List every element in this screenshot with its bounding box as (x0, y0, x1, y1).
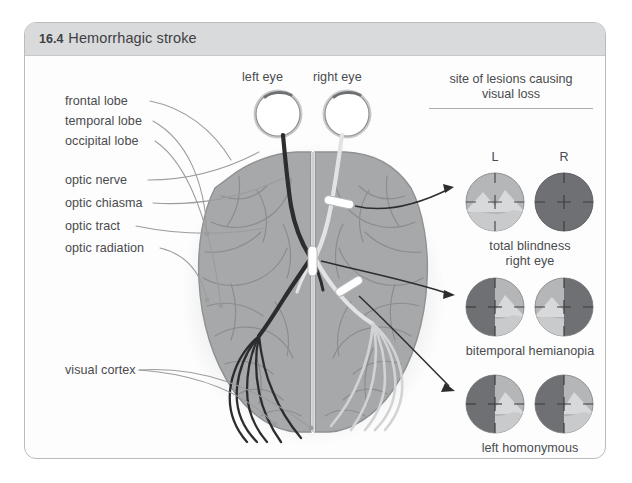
figure-heading: 16.4Hemorrhagic stroke (39, 30, 197, 46)
leader-dot-radiation (205, 298, 210, 303)
caption-total-blindness: total blindness right eye (439, 239, 606, 269)
figure-number: 16.4 (39, 32, 63, 46)
caption-line1: total blindness (439, 239, 606, 254)
field-row-2-left (465, 277, 525, 337)
lesion-panel-title: site of lesions causing visual loss (423, 72, 599, 102)
leader-dot-occipital (219, 304, 224, 309)
leader-dot-cortex-a (273, 422, 278, 427)
lesion-panel-title-line1: site of lesions causing (423, 72, 599, 87)
label-temporal-lobe: temporal lobe (65, 114, 142, 128)
leader-dot-temporal (205, 232, 210, 237)
field-row-3-left (465, 374, 525, 434)
caption-line1: left homonymous (439, 441, 606, 456)
left-eye-label: left eye (242, 70, 283, 84)
label-occipital-lobe: occipital lobe (65, 134, 139, 148)
label-optic-tract: optic tract (65, 219, 120, 233)
figure-title: Hemorrhagic stroke (68, 30, 196, 46)
field-row-1-right (535, 173, 593, 231)
caption-bitemporal-hemianopia: bitemporal hemianopia (439, 344, 606, 359)
lesion-panel-title-line2: visual loss (423, 87, 599, 102)
caption-line2: hemianopia (439, 456, 606, 459)
arrowhead-2 (443, 290, 455, 299)
diagram-canvas: left eye right eye frontal lobe temporal… (25, 56, 605, 458)
label-optic-nerve: optic nerve (65, 173, 127, 187)
field-row-2-right (534, 277, 594, 337)
field-row-3-right (534, 374, 594, 434)
label-optic-chiasma: optic chiasma (65, 196, 143, 210)
label-optic-radiation: optic radiation (65, 241, 144, 255)
label-visual-cortex: visual cortex (65, 363, 136, 377)
caption-line1: bitemporal hemianopia (439, 344, 606, 359)
eyeballs-group (256, 92, 369, 136)
leader-dot-cortex-b (309, 426, 314, 431)
column-header-left: L (485, 150, 505, 164)
left-eye-outline (256, 92, 300, 136)
lesion-panel-divider (429, 108, 593, 109)
field-row-1-left (465, 173, 525, 232)
figure-header: 16.4Hemorrhagic stroke (25, 23, 605, 56)
column-header-right: R (554, 150, 574, 164)
right-eye-label: right eye (313, 70, 362, 84)
caption-line2: right eye (439, 254, 606, 269)
leader-frontal-lobe (150, 101, 231, 160)
caption-left-homonymous-hemianopia: left homonymous hemianopia (439, 441, 606, 459)
lesion-marker-optic-chiasma (308, 246, 317, 276)
right-eye-outline (325, 92, 369, 136)
figure-frame: 16.4Hemorrhagic stroke (24, 22, 606, 459)
label-frontal-lobe: frontal lobe (65, 94, 128, 108)
